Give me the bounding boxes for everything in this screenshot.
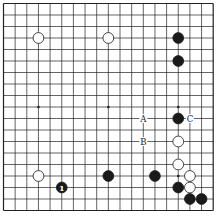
star-point	[177, 175, 180, 178]
marker-a: A	[139, 114, 147, 124]
star-point	[107, 106, 110, 109]
marker-b: B	[140, 137, 146, 147]
marker-c: C	[187, 114, 194, 124]
black-stone	[196, 194, 207, 205]
white-stone	[173, 159, 184, 170]
black-stone	[173, 56, 184, 67]
white-stone	[33, 171, 44, 182]
white-stone	[185, 182, 196, 193]
black-stone	[150, 171, 161, 182]
black-stone	[173, 113, 184, 124]
black-stone	[185, 194, 196, 205]
white-stone	[173, 136, 184, 147]
white-stone	[185, 171, 196, 182]
white-stone	[33, 33, 44, 44]
black-stone	[173, 33, 184, 44]
star-point	[177, 106, 180, 109]
black-stone	[103, 171, 114, 182]
black-stone	[173, 182, 184, 193]
go-board: ABC 1	[0, 0, 216, 220]
white-stone	[103, 33, 114, 44]
move-number: 1	[59, 183, 65, 193]
star-point	[37, 106, 40, 109]
